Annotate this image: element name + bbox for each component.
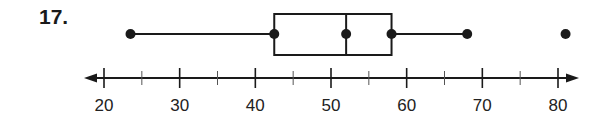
box-and-whisker	[125, 14, 570, 55]
number-line-axis: 20304050607080	[84, 68, 579, 115]
tick-label: 80	[549, 96, 568, 115]
q1-point	[269, 29, 279, 39]
tick-label: 60	[397, 96, 416, 115]
iqr-box	[274, 14, 391, 55]
box-plot: 20304050607080	[0, 0, 606, 123]
left-arrow-icon	[84, 74, 97, 83]
right-arrow-icon	[566, 74, 579, 83]
max-point	[462, 29, 472, 39]
min-point	[125, 29, 135, 39]
tick-label: 40	[246, 96, 265, 115]
median-point	[341, 29, 351, 39]
outlier-point	[561, 29, 571, 39]
tick-label: 20	[95, 96, 114, 115]
tick-label: 50	[322, 96, 341, 115]
tick-label: 30	[170, 96, 189, 115]
q3-point	[387, 29, 397, 39]
tick-label: 70	[473, 96, 492, 115]
